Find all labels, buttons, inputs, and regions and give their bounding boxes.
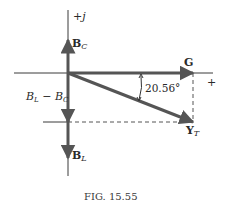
bl-label: BL [72, 149, 87, 163]
phasor-diagram: +j + BC BL G YT BL − BC 20.56° FIG. 15.5… [0, 0, 227, 218]
bc-label: BC [72, 37, 87, 51]
angle-label: 20.56° [145, 82, 180, 94]
angle-arc [139, 76, 142, 100]
difference-label: BL − BC [25, 90, 69, 104]
figure-caption: FIG. 15.55 [84, 191, 138, 202]
imaginary-axis-label: +j [73, 10, 86, 23]
real-axis-label: + [207, 76, 216, 89]
yt-vector [68, 73, 193, 122]
yt-label: YT [185, 124, 200, 138]
g-label: G [184, 56, 193, 69]
